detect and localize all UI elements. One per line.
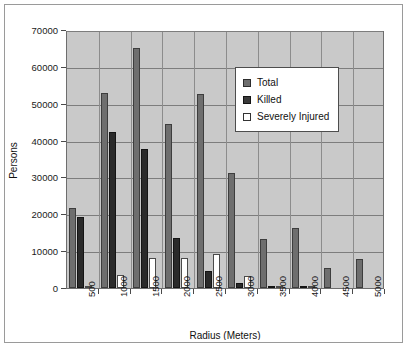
x-axis-label: 500 xyxy=(87,281,97,297)
x-axis-tick xyxy=(257,289,258,294)
category-divider xyxy=(353,32,354,288)
legend-item-severely-injured: Severely Injured xyxy=(243,108,329,125)
bar-killed-1500 xyxy=(141,149,148,288)
legend-label-total: Total xyxy=(257,78,278,88)
y-axis-label: 50000 xyxy=(6,100,58,110)
category-divider xyxy=(226,32,227,288)
bar-total-500 xyxy=(69,208,76,288)
bar-total-2000 xyxy=(165,124,172,288)
y-axis-label: 40000 xyxy=(6,137,58,147)
x-axis-label: 3000 xyxy=(246,276,256,297)
legend-item-total: Total xyxy=(243,74,329,91)
bar-killed-2500 xyxy=(205,271,212,288)
bar-total-1000 xyxy=(101,93,108,288)
x-axis-tick xyxy=(193,289,194,294)
x-axis-label: 4000 xyxy=(310,276,320,297)
legend: Total Killed Severely Injured xyxy=(235,67,339,132)
bar-killed-500 xyxy=(77,217,84,288)
y-axis-tick xyxy=(61,214,66,215)
x-axis-tick xyxy=(289,289,290,294)
bar-killed-3000 xyxy=(236,283,243,288)
bar-total-5000 xyxy=(356,259,363,288)
x-axis-label: 5000 xyxy=(373,276,383,297)
y-axis-tick xyxy=(61,30,66,31)
category-divider xyxy=(99,32,100,288)
legend-item-killed: Killed xyxy=(243,91,329,108)
legend-swatch-killed xyxy=(243,96,251,104)
category-divider xyxy=(162,32,163,288)
y-axis-tick xyxy=(61,177,66,178)
x-axis-label: 4500 xyxy=(341,276,351,297)
x-axis-tick xyxy=(384,289,385,294)
legend-label-killed: Killed xyxy=(257,95,281,105)
x-axis-title: Radius (Meters) xyxy=(66,330,384,341)
bar-total-3500 xyxy=(260,239,267,288)
y-axis-label: 70000 xyxy=(6,26,58,36)
x-axis-label: 3500 xyxy=(278,276,288,297)
category-divider xyxy=(131,32,132,288)
x-axis-label: 1500 xyxy=(151,276,161,297)
bar-total-4000 xyxy=(292,228,299,288)
y-axis-label: 10000 xyxy=(6,247,58,257)
bar-total-1500 xyxy=(133,48,140,288)
bar-total-2500 xyxy=(197,94,204,288)
legend-swatch-severely-injured xyxy=(243,113,251,121)
y-axis-label: 60000 xyxy=(6,63,58,73)
y-axis-tick xyxy=(61,141,66,142)
x-axis-label: 1000 xyxy=(119,276,129,297)
chart-frame: Persons Total Killed Severely Injured 01… xyxy=(4,4,403,343)
bar-killed-2000 xyxy=(173,238,180,288)
y-axis-tick xyxy=(61,67,66,68)
bar-killed-3500 xyxy=(268,286,275,288)
x-axis-tick xyxy=(320,289,321,294)
y-axis-label: 0 xyxy=(6,284,58,294)
legend-swatch-total xyxy=(243,79,251,87)
category-divider xyxy=(194,32,195,288)
x-axis-tick xyxy=(352,289,353,294)
x-axis-tick xyxy=(98,289,99,294)
bar-total-3000 xyxy=(228,173,235,288)
y-axis-tick xyxy=(61,288,66,289)
x-axis-tick xyxy=(161,289,162,294)
bar-total-4500 xyxy=(324,268,331,288)
legend-label-severely-injured: Severely Injured xyxy=(257,112,329,122)
x-axis-label: 2500 xyxy=(214,276,224,297)
gridline xyxy=(67,31,383,32)
plot-area: Total Killed Severely Injured xyxy=(66,31,384,289)
y-axis-tick xyxy=(61,104,66,105)
y-axis-label: 30000 xyxy=(6,173,58,183)
x-axis-tick xyxy=(225,289,226,294)
bar-killed-1000 xyxy=(109,132,116,288)
x-axis-tick xyxy=(130,289,131,294)
y-axis-label: 20000 xyxy=(6,210,58,220)
x-axis-label: 2000 xyxy=(182,276,192,297)
y-axis-tick xyxy=(61,251,66,252)
bar-killed-4000 xyxy=(300,286,307,288)
